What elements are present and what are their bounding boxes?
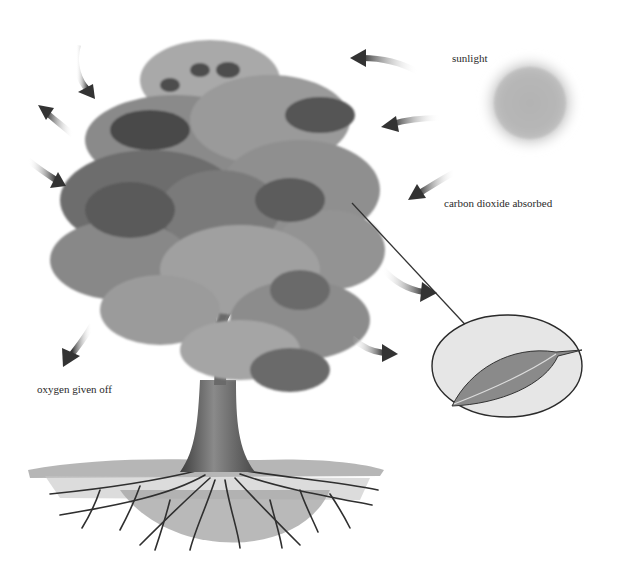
arrow-in-left xyxy=(28,160,66,188)
arrow-out-right-2 xyxy=(352,338,398,362)
label-sunlight: sunlight xyxy=(452,52,487,64)
leaf-inset xyxy=(432,315,582,417)
arrow-co2 xyxy=(408,172,455,200)
label-oxygen: oxygen given off xyxy=(37,383,112,395)
label-carbon-dioxide: carbon dioxide absorbed xyxy=(444,197,552,209)
arrow-in-top-left xyxy=(76,45,95,99)
arrow-oxygen xyxy=(62,325,92,367)
arrow-sunlight-2 xyxy=(381,116,440,132)
photosynthesis-diagram: sunlight carbon dioxide absorbed oxygen … xyxy=(0,0,618,572)
sun-icon xyxy=(484,57,576,149)
foliage xyxy=(50,40,385,392)
arrow-sunlight-1 xyxy=(350,49,418,72)
arrow-out-left xyxy=(38,105,73,135)
tree-illustration xyxy=(0,0,618,572)
